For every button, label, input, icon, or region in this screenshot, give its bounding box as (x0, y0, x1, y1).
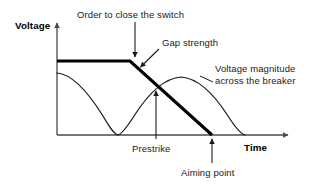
annotation-gap-strength-label: Gap strength (162, 37, 218, 48)
x-axis-label: Time (244, 142, 267, 153)
annotation-aiming-point-label: Aiming point (181, 167, 234, 178)
gap-strength-curve (57, 61, 212, 135)
prestrike-diagram: Voltage Time Order to close the switch G… (0, 0, 315, 189)
annotation-order-to-close-label: Order to close the switch (77, 9, 184, 20)
gap-strength-arrow (141, 49, 160, 67)
voltage-magnitude-arrow (200, 76, 213, 82)
annotation-prestrike-label: Prestrike (132, 143, 170, 154)
annotation-voltage-magnitude-line1: Voltage magnitude (215, 63, 295, 75)
annotation-voltage-magnitude-line2: across the breaker (215, 75, 295, 87)
annotation-voltage-magnitude-label: Voltage magnitude across the breaker (215, 63, 295, 86)
y-axis-label: Voltage (15, 20, 50, 31)
